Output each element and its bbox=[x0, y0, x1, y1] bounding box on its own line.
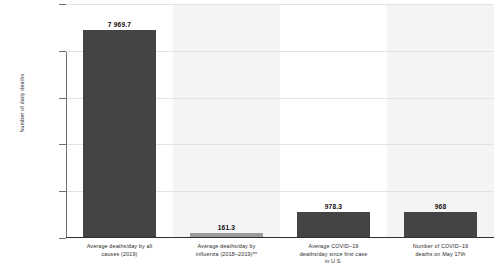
category-label-line: Number of COVID–19 bbox=[387, 243, 494, 251]
bar-value-label: 968 bbox=[404, 203, 477, 210]
bar-value-label: 978.3 bbox=[297, 203, 370, 210]
category-label-line: deaths on May 17th bbox=[387, 251, 494, 259]
y-axis-tick bbox=[59, 238, 66, 239]
category-label-line: deaths/day since first case bbox=[280, 251, 387, 259]
category-label: Number of COVID–19deaths on May 17th bbox=[387, 243, 494, 258]
category-label-line: Average deaths/day by all bbox=[66, 243, 173, 251]
plot-area: 7 969.7161.3978.3968 bbox=[66, 4, 494, 238]
category-label: Average deaths/day by allcauses (2019) bbox=[66, 243, 173, 258]
y-axis-title: Number of daily deaths bbox=[19, 43, 25, 163]
y-axis-tick bbox=[59, 4, 66, 5]
bar bbox=[83, 30, 156, 237]
bar bbox=[404, 212, 477, 237]
y-axis-tick bbox=[59, 144, 66, 145]
bar-value-label: 161.3 bbox=[190, 224, 263, 231]
bar-series: 7 969.7161.3978.3968 bbox=[66, 4, 494, 238]
bar-value-label: 7 969.7 bbox=[83, 21, 156, 28]
category-label-line: Average deaths/day by bbox=[173, 243, 280, 251]
category-label-line: in U.S. bbox=[280, 258, 387, 266]
bar bbox=[297, 212, 370, 237]
y-axis-tick bbox=[59, 98, 66, 99]
bar-chart: Number of daily deaths 7 969.7161.3978.3… bbox=[0, 0, 500, 269]
category-label-line: causes (2019) bbox=[66, 251, 173, 259]
y-axis-tick bbox=[59, 191, 66, 192]
category-label: Average deaths/day byinfluenza (2018–201… bbox=[173, 243, 280, 258]
x-axis-line bbox=[66, 237, 494, 238]
category-labels: Average deaths/day by allcauses (2019)Av… bbox=[66, 243, 494, 269]
y-axis-ticks bbox=[59, 4, 66, 238]
y-axis-tick bbox=[59, 51, 66, 52]
category-label: Average COVID–19deaths/day since first c… bbox=[280, 243, 387, 266]
category-label-line: Average COVID–19 bbox=[280, 243, 387, 251]
category-label-line: influenza (2018–2019)** bbox=[173, 251, 280, 259]
